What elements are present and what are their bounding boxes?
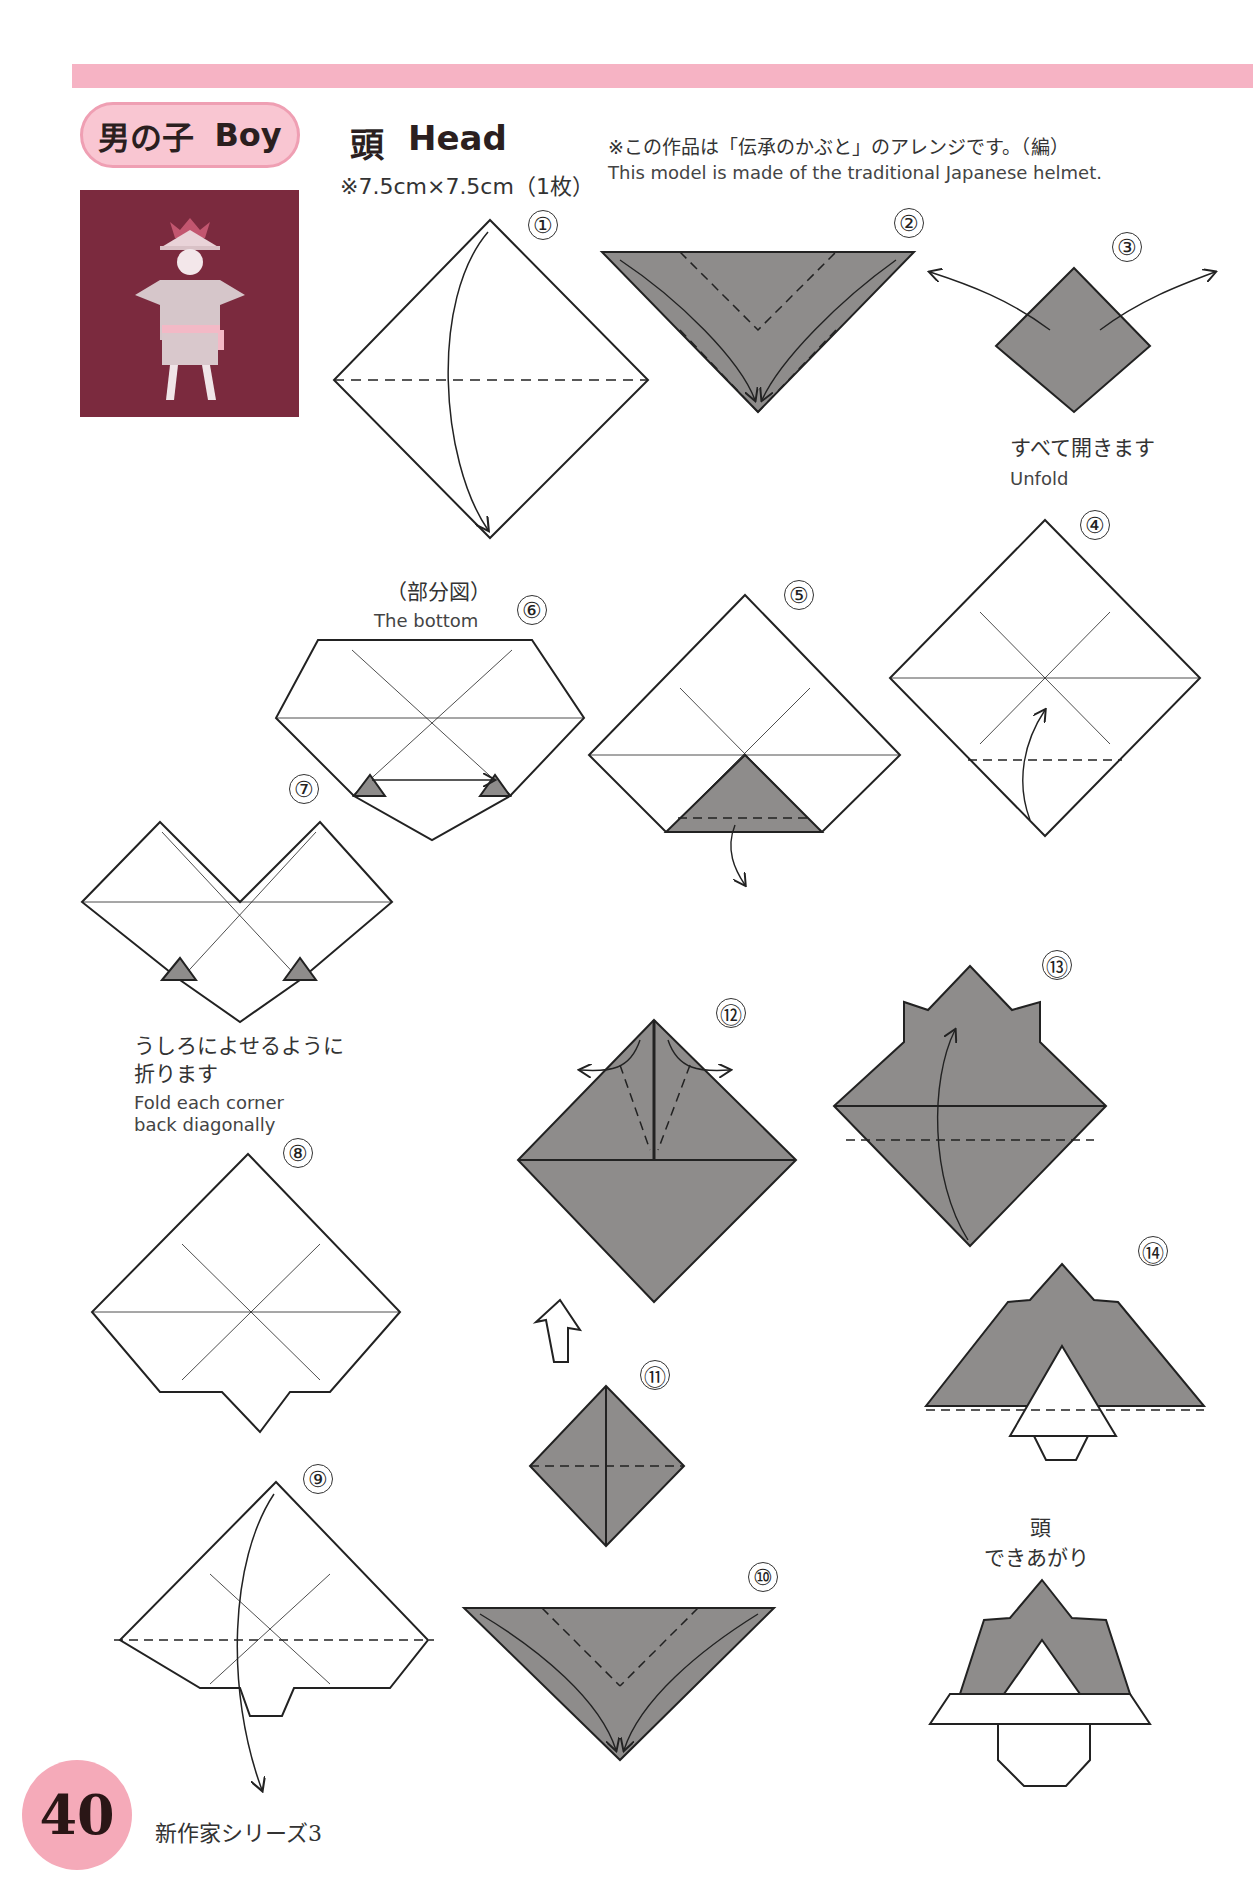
step-number-3: ③: [1112, 232, 1142, 262]
step7-caption-en-2: back diagonally: [134, 1114, 276, 1136]
step-number-5: ⑤: [784, 580, 814, 610]
step-number-13: ⑬: [1042, 950, 1072, 980]
folding-diagrams: [0, 0, 1253, 1893]
step-number-6: ⑥: [517, 595, 547, 625]
step7-caption-en-1: Fold each corner: [134, 1092, 284, 1114]
finished-label-1: 頭: [1030, 1516, 1051, 1541]
series-title: 新作家シリーズ3: [155, 1815, 322, 1847]
step3-caption-en: Unfold: [1010, 468, 1068, 490]
step7-caption-jp-2: 折ります: [134, 1062, 218, 1087]
step-number-7: ⑦: [289, 774, 319, 804]
step6-caption-en: The bottom: [374, 610, 478, 632]
step3-caption-jp: すべて開きます: [1010, 436, 1155, 461]
step-number-1: ①: [528, 210, 558, 240]
page-number: 40: [22, 1760, 132, 1870]
step6-caption-jp: （部分図）: [386, 580, 491, 605]
step-number-8: ⑧: [283, 1138, 313, 1168]
step7-caption-jp-1: うしろによせるように: [134, 1034, 344, 1059]
step-number-10: ⑩: [748, 1562, 778, 1592]
step-number-12: ⑫: [716, 998, 746, 1028]
step-number-2: ②: [894, 208, 924, 238]
step-number-11: ⑪: [640, 1360, 670, 1390]
step-number-9: ⑨: [303, 1464, 333, 1494]
step-number-14: ⑭: [1138, 1236, 1168, 1266]
step-number-4: ④: [1080, 510, 1110, 540]
finished-label-2: できあがり: [984, 1546, 1089, 1571]
